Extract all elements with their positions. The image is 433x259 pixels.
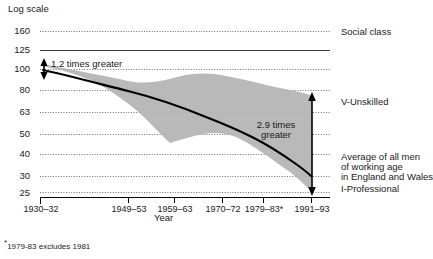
y-tick-label-50: 50 — [4, 129, 30, 139]
y-tick-label-125: 125 — [4, 45, 30, 55]
left-ratio-arrow — [40, 58, 47, 80]
x-tick-label-1991-93: 1991–93 — [282, 205, 342, 214]
annotation-left-ratio: 1.2 times greater — [51, 59, 122, 69]
legend-label-average-all-men: Average of all men of working age in Eng… — [341, 152, 433, 182]
annotation-right-ratio: 2.9 times greater — [248, 120, 304, 140]
y-tick-label-100: 100 — [4, 64, 30, 74]
figure-footnote: *1979-83 excludes 1981 — [4, 239, 90, 251]
y-tick-label-40: 40 — [4, 149, 30, 159]
y-tick-label-63: 63 — [4, 107, 30, 117]
legend-label-i-professional: I-Professional — [341, 184, 399, 194]
y-tick-label-80: 80 — [4, 85, 30, 95]
annotation-right-ratio-line-2: greater — [248, 130, 304, 140]
y-tick-label-160: 160 — [4, 26, 30, 36]
footnote-text: 1979-83 excludes 1981 — [7, 242, 90, 251]
legend-label-v-unskilled: V-Unskilled — [341, 97, 389, 107]
y-tick-label-25: 25 — [4, 188, 30, 198]
legend-label-social-class: Social class — [341, 27, 391, 37]
legend-label-average-line-3: in England and Wales — [341, 172, 433, 182]
x-tick-label-1930-32: 1930–32 — [11, 205, 71, 214]
y-axis-title: Log scale — [8, 4, 49, 14]
x-axis-title: Year — [154, 213, 173, 223]
y-tick-label-30: 30 — [4, 171, 30, 181]
